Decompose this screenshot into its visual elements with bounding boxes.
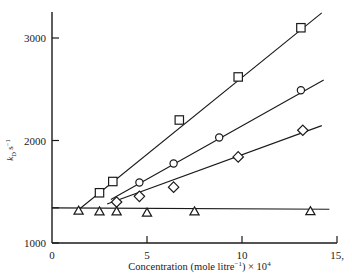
data-point-squares-4	[297, 24, 305, 32]
chart-container: 100020003000051015,Concentration (mole l…	[0, 0, 352, 278]
data-point-circles-2	[216, 134, 223, 141]
y-tick-label-3000: 3000	[24, 32, 47, 44]
data-point-squares-3	[234, 73, 242, 81]
y-axis-title: kD s−1	[4, 139, 17, 160]
svg-text:kD s−1: kD s−1	[4, 139, 17, 160]
y-tick-label-1000: 1000	[24, 237, 47, 249]
x-tick-label-0: 0	[49, 249, 55, 261]
data-point-diamonds-2	[168, 182, 178, 192]
data-point-triangles-5	[306, 207, 315, 215]
data-point-diamonds-3	[233, 152, 243, 162]
y-tick-label-2000: 2000	[24, 135, 47, 147]
data-point-diamonds-1	[134, 191, 144, 201]
x-tick-label-15: 15,	[330, 249, 344, 261]
data-point-squares-1	[109, 177, 117, 185]
data-point-circles-3	[297, 87, 304, 94]
data-point-squares-0	[95, 189, 103, 197]
x-axis-title: Concentration (mole litre−1) × 104	[128, 260, 271, 273]
x-tick-label-5: 5	[144, 249, 150, 261]
data-point-triangles-3	[142, 208, 151, 216]
data-point-circles-0	[136, 179, 143, 186]
scatter-plot: 100020003000051015,Concentration (mole l…	[0, 0, 352, 278]
data-point-circles-1	[170, 160, 177, 167]
fit-line-triangles	[52, 208, 329, 209]
data-point-squares-2	[175, 116, 183, 124]
